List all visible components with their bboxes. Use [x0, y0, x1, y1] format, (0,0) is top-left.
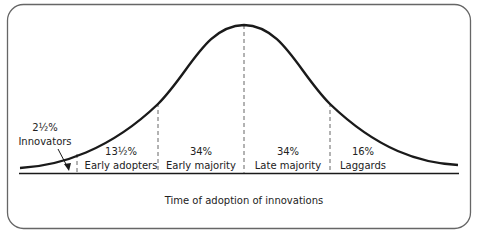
- late-majority-label: Late majority: [255, 160, 322, 171]
- laggards-percent: 16%: [352, 146, 374, 157]
- arrowhead-icon: [64, 163, 71, 171]
- x-axis-label: Time of adoption of innovations: [164, 195, 324, 206]
- diffusion-of-innovations-diagram: 2½% Innovators 13½% Early adopters 34% E…: [0, 0, 478, 232]
- bell-curve: [20, 25, 458, 168]
- late-majority-percent: 34%: [277, 146, 299, 157]
- innovators-percent: 2½%: [32, 122, 58, 133]
- early-adopters-label: Early adopters: [85, 160, 158, 171]
- innovators-label: Innovators: [18, 136, 71, 147]
- early-adopters-percent: 13½%: [105, 146, 137, 157]
- early-majority-label: Early majority: [166, 160, 236, 171]
- early-majority-percent: 34%: [190, 146, 212, 157]
- laggards-label: Laggards: [340, 160, 386, 171]
